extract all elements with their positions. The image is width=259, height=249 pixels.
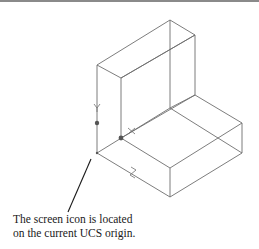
edge-low-right-back [195,95,242,123]
y-axis-marker-icon [95,121,99,125]
tall-block-top-face [97,20,195,78]
origin-marker-icon [96,152,98,154]
caption-line-1: The screen icon is located [13,212,135,226]
figure-canvas: The screen icon is located on the curren… [0,0,259,249]
edge-bottom-right [170,153,242,197]
edge-bottom-left [97,153,170,197]
caption-line-2: on the current UCS origin. [13,226,135,240]
figure-caption: The screen icon is located on the curren… [13,212,135,240]
x-axis-label-icon [128,128,135,134]
wireframe-edges [97,20,242,197]
edge-top-front [121,35,195,78]
leader-line [68,159,91,212]
axis-labels [94,104,136,178]
edge-low-front-top [170,123,242,168]
edge-low-front-left [121,138,170,168]
x-axis-marker-icon [119,136,124,141]
edge-hidden-bottom [218,138,242,153]
ucs-icon [95,121,124,154]
edge-inner-mid [170,108,218,138]
